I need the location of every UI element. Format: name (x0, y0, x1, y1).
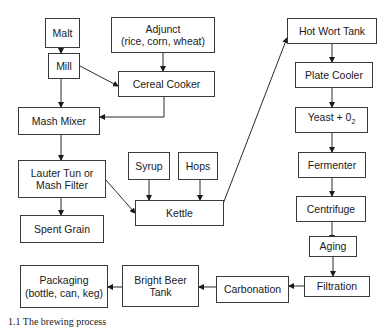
node-label-line2: (rice, corn, wheat) (121, 35, 205, 48)
node-label-line1: Lauter Tun or (31, 167, 93, 180)
node-adjunct: Adjunct (rice, corn, wheat) (111, 17, 215, 53)
node-label: Fermenter (308, 159, 356, 172)
node-label-line1: Packaging (39, 274, 88, 287)
node-carbonation: Carbonation (216, 276, 289, 303)
node-label: Aging (320, 240, 347, 253)
node-label-line1: Adjunct (145, 23, 180, 36)
node-yeast-o2: Yeast + 02 (295, 107, 368, 133)
node-label: Mash Mixer (32, 115, 86, 128)
node-label: Hot Wort Tank (299, 25, 365, 38)
node-label-line2: Tank (149, 286, 171, 299)
node-label: Syrup (135, 160, 162, 173)
node-label: Centrifuge (307, 203, 355, 216)
node-bright-beer-tank: Bright Beer Tank (122, 265, 199, 307)
node-label: Kettle (166, 207, 193, 220)
node-hot-wort-tank: Hot Wort Tank (287, 18, 377, 44)
node-centrifuge: Centrifuge (296, 196, 366, 222)
node-label: Malt (53, 27, 73, 40)
node-label-line1: Bright Beer (134, 274, 187, 287)
node-mash-mixer: Mash Mixer (18, 107, 100, 135)
node-hops: Hops (178, 152, 218, 180)
node-kettle: Kettle (135, 200, 224, 226)
arrow-lautertun-kettle (105, 179, 135, 213)
node-malt: Malt (45, 18, 80, 48)
arrow-mill-cerealcooker (80, 66, 118, 86)
node-label: Spent Grain (34, 223, 90, 236)
node-aging: Aging (309, 236, 357, 257)
node-label: Mill (56, 60, 72, 73)
node-cereal-cooker: Cereal Cooker (118, 71, 215, 97)
node-syrup: Syrup (128, 152, 170, 180)
arrow-kettle-hotworttank (223, 38, 287, 204)
node-label-line2: Mash Filter (36, 179, 88, 192)
node-packaging: Packaging (bottle, can, keg) (20, 265, 108, 308)
node-label: Carbonation (224, 283, 281, 296)
node-mill: Mill (48, 53, 80, 79)
node-label: Cereal Cooker (133, 78, 201, 91)
node-label: Yeast + 02 (308, 111, 356, 129)
node-label-line2: (bottle, can, keg) (25, 287, 103, 300)
figure-caption: 1.1 The brewing process (8, 316, 106, 327)
node-filtration: Filtration (304, 276, 370, 297)
node-label: Plate Cooler (305, 69, 363, 82)
node-label: Hops (186, 160, 211, 173)
node-spent-grain: Spent Grain (20, 215, 104, 243)
node-fermenter: Fermenter (298, 152, 366, 178)
node-plate-cooler: Plate Cooler (295, 62, 373, 88)
arrow-cerealcooker-mashmixer (100, 97, 164, 117)
node-lauter-tun: Lauter Tun or Mash Filter (18, 160, 106, 198)
node-label: Filtration (317, 280, 357, 293)
